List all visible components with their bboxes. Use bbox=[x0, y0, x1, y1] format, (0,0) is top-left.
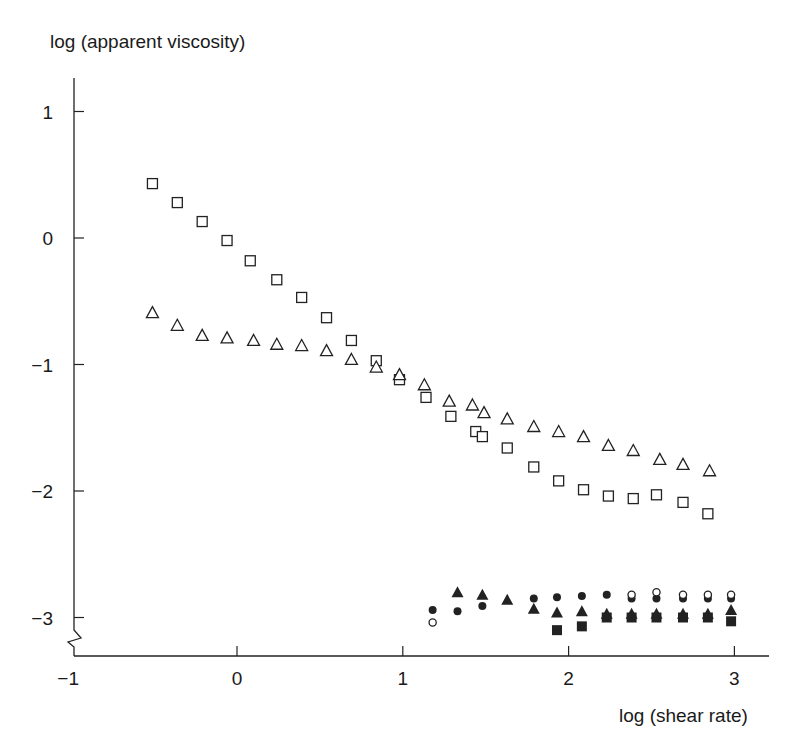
open-square-marker bbox=[297, 292, 307, 302]
open-circle-marker bbox=[679, 591, 686, 598]
filled-triangle-marker bbox=[452, 586, 464, 597]
open-triangle-marker bbox=[602, 439, 614, 450]
filled-triangle-marker bbox=[551, 606, 563, 617]
open-triangle-marker bbox=[627, 445, 639, 456]
open-triangle-marker bbox=[654, 453, 666, 464]
open-square-marker bbox=[477, 432, 487, 442]
data-points bbox=[146, 179, 737, 636]
open-circle-marker bbox=[429, 619, 436, 626]
open-triangle-marker bbox=[248, 334, 260, 345]
open-square-marker bbox=[346, 335, 356, 345]
filled-square-marker bbox=[726, 616, 736, 626]
y-tick-label: −3 bbox=[31, 608, 53, 629]
open-square-marker bbox=[222, 236, 232, 246]
filled-triangle-marker bbox=[476, 589, 488, 600]
filled-circle-marker bbox=[429, 606, 437, 614]
open-square-marker bbox=[678, 497, 688, 507]
open-circle-marker bbox=[727, 591, 734, 598]
y-tick-label: −2 bbox=[31, 481, 53, 502]
open-circle-marker bbox=[628, 591, 635, 598]
open-triangle-marker bbox=[418, 379, 430, 390]
filled-circle-marker bbox=[578, 592, 586, 600]
open-square-marker bbox=[322, 313, 332, 323]
filled-square-marker bbox=[602, 613, 612, 623]
filled-circle-marker bbox=[530, 595, 538, 603]
filled-square-marker bbox=[678, 613, 688, 623]
filled-circle-marker bbox=[454, 607, 462, 615]
open-triangle-marker bbox=[221, 332, 233, 343]
x-tick-label: 3 bbox=[729, 668, 740, 689]
open-triangle-marker bbox=[271, 338, 283, 349]
filled-square-marker bbox=[552, 625, 562, 635]
filled-square-marker bbox=[703, 613, 713, 623]
open-square-marker bbox=[529, 462, 539, 472]
filled-circle-marker bbox=[553, 593, 561, 601]
filled-triangle-marker bbox=[501, 594, 513, 605]
filled-square-marker bbox=[577, 621, 587, 631]
open-triangle-marker bbox=[443, 395, 455, 406]
open-triangle-marker bbox=[553, 426, 565, 437]
open-triangle-marker bbox=[501, 413, 513, 424]
filled-triangle-marker bbox=[576, 605, 588, 616]
filled-triangle-marker bbox=[528, 603, 540, 614]
open-square-marker bbox=[554, 476, 564, 486]
open-triangle-marker bbox=[528, 420, 540, 431]
open-triangle-marker bbox=[677, 458, 689, 469]
open-square-marker bbox=[603, 491, 613, 501]
y-tick-label: 1 bbox=[42, 102, 53, 123]
open-triangle-marker bbox=[345, 353, 357, 364]
y-axis-line bbox=[68, 78, 81, 656]
open-circle-marker bbox=[704, 591, 711, 598]
y-tick-label: 0 bbox=[42, 228, 53, 249]
scatter-plot: 10−1−2−3−10123 bbox=[0, 0, 798, 751]
open-triangle-marker bbox=[146, 307, 158, 318]
filled-circle-marker bbox=[478, 602, 486, 610]
open-square-marker bbox=[245, 256, 255, 266]
open-square-marker bbox=[421, 392, 431, 402]
open-triangle-marker bbox=[296, 340, 308, 351]
open-square-marker bbox=[703, 509, 713, 519]
open-square-marker bbox=[579, 485, 589, 495]
open-triangle-marker bbox=[478, 407, 490, 418]
y-tick-label: −1 bbox=[31, 355, 53, 376]
filled-circle-marker bbox=[603, 591, 611, 599]
open-triangle-marker bbox=[321, 345, 333, 356]
open-triangle-marker bbox=[466, 399, 478, 410]
filled-square-marker bbox=[627, 613, 637, 623]
open-square-marker bbox=[197, 217, 207, 227]
x-tick-label: 2 bbox=[563, 668, 574, 689]
open-square-marker bbox=[502, 443, 512, 453]
open-triangle-marker bbox=[196, 329, 208, 340]
open-square-marker bbox=[651, 490, 661, 500]
x-tick-label: −1 bbox=[57, 668, 79, 689]
filled-square-marker bbox=[651, 613, 661, 623]
open-triangle-marker bbox=[171, 319, 183, 330]
open-square-marker bbox=[272, 275, 282, 285]
open-square-marker bbox=[147, 179, 157, 189]
open-triangle-marker bbox=[578, 431, 590, 442]
filled-triangle-marker bbox=[725, 604, 737, 615]
open-circle-marker bbox=[653, 589, 660, 596]
x-tick-label: 1 bbox=[398, 668, 409, 689]
open-square-marker bbox=[172, 198, 182, 208]
x-tick-label: 0 bbox=[232, 668, 243, 689]
open-triangle-marker bbox=[704, 465, 716, 476]
open-square-marker bbox=[446, 411, 456, 421]
open-square-marker bbox=[628, 494, 638, 504]
